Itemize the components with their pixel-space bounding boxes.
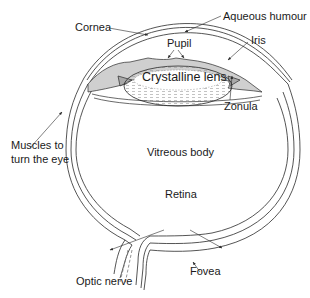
sclera [66, 78, 300, 278]
label-cornea: Cornea [75, 21, 111, 33]
label-iris: Iris [251, 34, 266, 46]
label-retina: Retina [165, 188, 197, 200]
label-optic-nerve: Optic nerve [76, 275, 132, 287]
label-zonula: Zonula [224, 100, 258, 112]
label-pupil: Pupil [167, 37, 191, 49]
label-fovea: Fovea [190, 265, 221, 277]
label-aqueous-humour: Aqueous humour [223, 10, 307, 22]
label-crystalline-lens: Crystalline lens [142, 71, 227, 83]
label-muscles-line2: turn the eye [11, 153, 69, 165]
label-muscles-line1: Muscles to [11, 139, 64, 151]
label-vitreous-body: Vitreous body [147, 146, 214, 158]
